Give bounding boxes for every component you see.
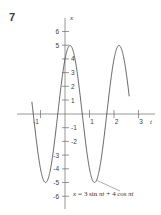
x-axis-tick-labels: -1 1 2 3	[33, 118, 143, 125]
y-tick-label--1: -1	[71, 124, 77, 131]
y-tick-label--2: -2	[71, 138, 77, 145]
y-tick-label-6: 6	[55, 28, 59, 35]
figure-container: 7 -1 1 2	[0, 0, 161, 215]
y-tick-label-3: 3	[71, 69, 75, 76]
y-tick-label-1: 1	[71, 97, 75, 104]
x-tick-label-1: 1	[90, 118, 94, 125]
x-tick-label-2: 2	[115, 118, 119, 125]
equation-term1-fn: sin	[89, 190, 97, 198]
y-axis-label: x	[69, 14, 74, 22]
x-tick-label-3: 3	[139, 118, 143, 125]
equation-plus: +	[106, 190, 110, 198]
y-tick-label--5: -5	[53, 179, 59, 186]
equation-term1-arg: πt	[99, 190, 104, 198]
y-tick-label--3: -3	[53, 152, 59, 159]
equation-term1-coeff: 3	[84, 190, 88, 198]
y-tick-label-2: 2	[71, 83, 75, 90]
equation-annotation: x=3sinπt+4cosπt	[73, 191, 133, 198]
y-tick-label--6: -6	[53, 193, 59, 200]
equation-term2-arg: πt	[128, 190, 133, 198]
x-axis-label: t	[150, 118, 153, 126]
equation-lhs: x	[73, 190, 76, 198]
equation-equals: =	[78, 190, 82, 198]
equation-term2-fn: cos	[117, 190, 126, 198]
equation-term2-coeff: 4	[112, 190, 116, 198]
plot-area: -1 1 2 3 6 5 4 3 2 1 -1 -2 -3 -4 -5 -6 x…	[0, 0, 161, 215]
y-tick-label-5: 5	[55, 42, 59, 49]
axes-group	[17, 18, 155, 209]
y-tick-label--4: -4	[53, 165, 59, 172]
